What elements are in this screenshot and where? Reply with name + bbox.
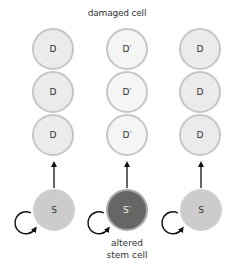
caption-line-1: altered <box>87 237 167 249</box>
self-renewal-arrow-icon <box>162 212 182 234</box>
self-renewal-arrow-icon <box>88 212 108 234</box>
altered-stem-cell-caption: altered stem cell <box>87 237 167 261</box>
self-renewal-arrow-icon <box>15 212 35 234</box>
caption-line-2: stem cell <box>87 249 167 261</box>
arrows-layer <box>0 0 234 269</box>
